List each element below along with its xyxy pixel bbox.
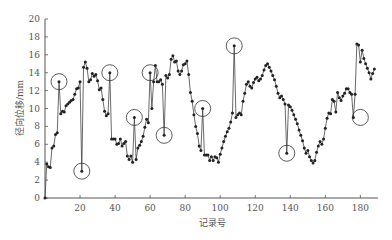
data-point (198, 145, 201, 148)
data-point (340, 99, 343, 102)
data-point (159, 78, 162, 81)
data-point (180, 69, 183, 72)
data-point (222, 140, 225, 143)
y-tick-label: 18 (29, 32, 41, 42)
data-point (275, 85, 278, 88)
data-point (285, 152, 288, 155)
data-point (77, 86, 80, 89)
data-point (150, 107, 153, 110)
data-point (333, 100, 336, 103)
data-point (266, 62, 269, 65)
data-point (79, 80, 82, 83)
data-point (73, 93, 76, 96)
data-point (194, 125, 197, 128)
data-point (177, 69, 180, 72)
data-point (245, 83, 248, 86)
data-point (291, 109, 294, 112)
data-point (164, 74, 167, 77)
data-point (231, 111, 234, 114)
data-point (305, 152, 308, 155)
data-point (261, 74, 264, 77)
line-chart: 0246810121416182020406080100120140160180… (0, 0, 392, 240)
data-point (136, 146, 139, 149)
outlier-circles (51, 38, 368, 179)
data-point (294, 118, 297, 121)
data-point (114, 137, 117, 140)
data-point (255, 76, 258, 79)
data-point (187, 73, 190, 76)
data-point (163, 134, 166, 137)
data-point (298, 128, 301, 131)
x-tick-label: 160 (317, 203, 334, 213)
data-point (224, 135, 227, 138)
data-point (350, 93, 353, 96)
x-tick-label: 100 (212, 203, 229, 213)
y-tick-label: 8 (34, 121, 40, 131)
data-point (107, 112, 110, 115)
data-point (191, 100, 194, 103)
x-tick-label: 40 (109, 203, 121, 213)
data-point (80, 170, 83, 173)
data-point (234, 116, 237, 119)
data-point (263, 69, 266, 72)
data-point (371, 72, 374, 75)
data-point (366, 67, 369, 70)
data-point (196, 132, 199, 135)
data-point (369, 77, 372, 80)
plot-area (44, 43, 376, 200)
data-point (189, 91, 192, 94)
data-point (89, 78, 92, 81)
x-axis-title: 记录号 (199, 218, 226, 228)
data-point (82, 66, 85, 69)
data-point (58, 80, 61, 83)
data-point (59, 112, 62, 115)
data-point (240, 113, 243, 116)
data-point (313, 159, 316, 162)
data-point (303, 146, 306, 149)
data-point (292, 113, 295, 116)
data-point (171, 54, 174, 57)
data-point (100, 86, 103, 89)
data-point (175, 60, 178, 63)
data-point (84, 60, 87, 63)
data-point (208, 159, 211, 162)
data-point (166, 77, 169, 80)
data-point (185, 60, 188, 63)
data-point (317, 145, 320, 148)
data-point (243, 92, 246, 95)
data-point (143, 126, 146, 129)
x-tick-label: 140 (282, 203, 299, 213)
y-tick-label: 10 (29, 104, 41, 114)
data-point (199, 149, 202, 152)
data-point (226, 130, 229, 133)
data-point (212, 159, 215, 162)
data-point (149, 71, 152, 74)
data-point (133, 116, 136, 119)
data-point (131, 161, 134, 164)
data-point (357, 43, 360, 46)
y-tick-label: 0 (34, 193, 40, 203)
data-point (220, 146, 223, 149)
data-point (128, 158, 131, 161)
y-tick-label: 16 (29, 50, 41, 60)
data-point (368, 71, 371, 74)
data-point (268, 66, 271, 69)
data-point (161, 83, 164, 86)
data-point (334, 111, 337, 114)
x-tick-label: 120 (247, 203, 264, 213)
y-axis-title: 径向位移/mm (14, 79, 25, 136)
data-point (250, 86, 253, 89)
data-point (273, 78, 276, 81)
y-tick-label: 14 (29, 68, 41, 78)
data-point (56, 131, 59, 134)
data-point (108, 71, 111, 74)
data-point (86, 67, 89, 70)
data-point (354, 93, 357, 96)
x-tick-label: 180 (352, 203, 369, 213)
data-point (227, 127, 230, 130)
data-point (296, 122, 299, 125)
data-point (170, 58, 173, 61)
data-point (215, 156, 218, 159)
data-point (308, 155, 311, 158)
data-point (319, 140, 322, 143)
